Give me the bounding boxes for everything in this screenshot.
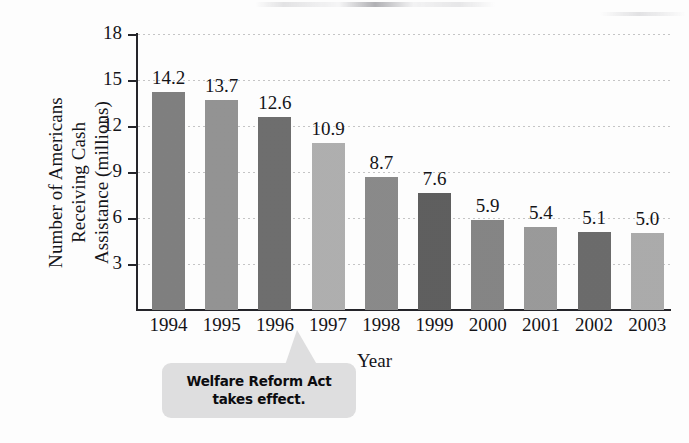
x-tick-label-2003: 2003 <box>616 314 678 336</box>
plot-area: 14.213.712.610.98.77.65.95.45.15.0 <box>136 34 670 310</box>
bar-2002[interactable]: 5.1 <box>578 232 611 310</box>
bar-2003[interactable]: 5.0 <box>631 233 664 310</box>
bar-texture <box>365 177 398 310</box>
bar-texture <box>418 193 451 310</box>
bar-texture <box>471 220 504 310</box>
bar-2000[interactable]: 5.9 <box>471 220 504 310</box>
callout-line-1: Welfare Reform Act <box>168 372 350 390</box>
chart-figure: Number of Americans Receiving Cash Assis… <box>0 0 689 443</box>
bar-value-label-2003: 5.0 <box>616 208 678 230</box>
y-tick-label-3: 3 <box>82 252 122 274</box>
gridline-18 <box>138 34 670 35</box>
bar-1997[interactable]: 10.9 <box>312 143 345 310</box>
bar-texture <box>205 100 238 310</box>
callout-line-2: takes effect. <box>168 390 350 408</box>
bar-1995[interactable]: 13.7 <box>205 100 238 310</box>
bar-1999[interactable]: 7.6 <box>418 193 451 310</box>
bar-texture <box>152 92 185 310</box>
bar-value-label-1999: 7.6 <box>404 168 466 190</box>
bar-value-label-1997: 10.9 <box>297 118 359 140</box>
bar-value-label-1996: 12.6 <box>244 92 306 114</box>
y-tick-label-9: 9 <box>82 160 122 182</box>
bar-texture <box>312 143 345 310</box>
bar-1998[interactable]: 8.7 <box>365 177 398 310</box>
bar-texture <box>524 227 557 310</box>
bar-texture <box>578 232 611 310</box>
bar-1994[interactable]: 14.2 <box>152 92 185 310</box>
x-axis-title-text: Year <box>357 350 392 371</box>
y-tick-label-18: 18 <box>82 22 122 44</box>
y-tick-label-12: 12 <box>82 114 122 136</box>
bar-1996[interactable]: 12.6 <box>258 117 291 310</box>
scan-artifact <box>255 2 495 7</box>
y-tick-label-6: 6 <box>82 206 122 228</box>
bar-2001[interactable]: 5.4 <box>524 227 557 310</box>
welfare-reform-callout: Welfare Reform Act takes effect. <box>162 363 356 418</box>
scan-artifact-secondary <box>600 12 686 16</box>
bar-texture <box>631 233 664 310</box>
bar-texture <box>258 117 291 310</box>
y-tick-label-15: 15 <box>82 68 122 90</box>
